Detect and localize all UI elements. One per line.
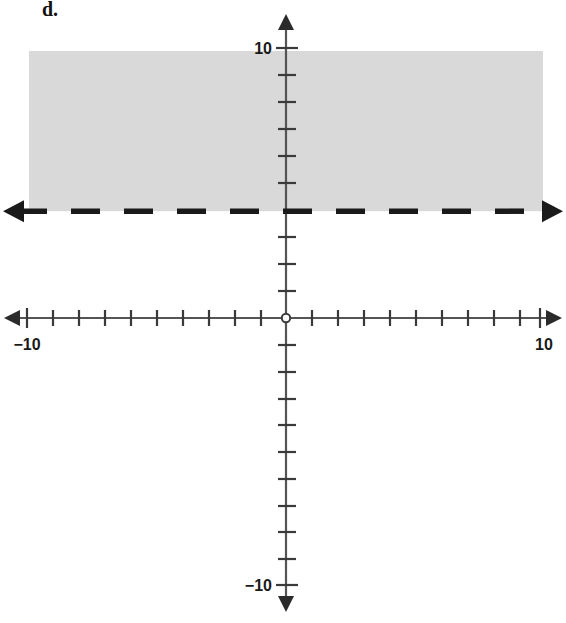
- y-axis-top-arrowhead: [278, 14, 294, 30]
- y-axis-label-negative-ten: −10: [245, 577, 272, 594]
- y-axis-bottom-arrowhead: [278, 596, 294, 612]
- x-axis-left-arrowhead: [4, 310, 20, 326]
- x-axis-right-arrowhead: [546, 310, 562, 326]
- coordinate-plane-graph: −10 10 10 −10: [0, 0, 566, 623]
- y-axis-label-positive-ten: 10: [254, 40, 272, 57]
- origin-open-circle-marker: [282, 314, 290, 322]
- x-axis-label-positive-ten: 10: [535, 336, 553, 353]
- boundary-line-right-arrowhead: [542, 200, 563, 222]
- x-axis-label-negative-ten: −10: [13, 336, 40, 353]
- figure-canvas: d.: [0, 0, 566, 623]
- boundary-line-left-arrowhead: [3, 200, 24, 222]
